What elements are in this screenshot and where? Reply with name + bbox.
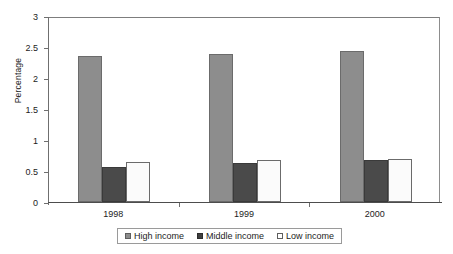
- bar-low-2000: [388, 159, 412, 202]
- bar-high-1999: [209, 54, 233, 202]
- y-axis-tick-label: 1: [0, 137, 38, 146]
- x-axis-tick-label: 2000: [345, 209, 405, 219]
- legend-label: Middle income: [206, 231, 264, 241]
- y-axis-tick-label: 2: [0, 75, 38, 84]
- bar-high-2000: [340, 51, 364, 202]
- y-axis-tick-label: 3: [0, 13, 38, 22]
- legend-swatch-icon-middle: [197, 233, 203, 239]
- legend-item-high: High income: [125, 231, 184, 241]
- legend-item-low: Low income: [277, 231, 334, 241]
- bar-low-1998: [126, 162, 150, 202]
- bar-middle-1998: [102, 167, 126, 202]
- plot-area: [48, 17, 440, 203]
- x-axis-tick-mark: [309, 203, 310, 207]
- y-axis-tick-label: 0: [0, 199, 38, 208]
- bar-middle-1999: [233, 163, 257, 202]
- legend-item-middle: Middle income: [197, 231, 264, 241]
- legend-label: High income: [134, 231, 184, 241]
- legend-label: Low income: [286, 231, 334, 241]
- y-axis-tick-label: 1.5: [0, 106, 38, 115]
- legend-swatch-icon-high: [125, 233, 131, 239]
- x-axis-line: [48, 202, 442, 203]
- bar-high-1998: [78, 56, 102, 202]
- legend-swatch-icon-low: [277, 233, 283, 239]
- x-axis-tick-mark: [179, 203, 180, 207]
- bar-middle-2000: [364, 160, 388, 202]
- y-axis-tick-label: 2.5: [0, 44, 38, 53]
- x-axis-tick-label: 1998: [83, 209, 143, 219]
- bar-low-1999: [257, 160, 281, 202]
- chart-legend: High incomeMiddle incomeLow income: [117, 228, 342, 244]
- bar-chart: Percentage 00.511.522.53 199819992000 Hi…: [0, 0, 453, 254]
- x-axis-tick-label: 1999: [214, 209, 274, 219]
- y-axis-line: [48, 17, 49, 205]
- y-axis-tick-label: 0.5: [0, 168, 38, 177]
